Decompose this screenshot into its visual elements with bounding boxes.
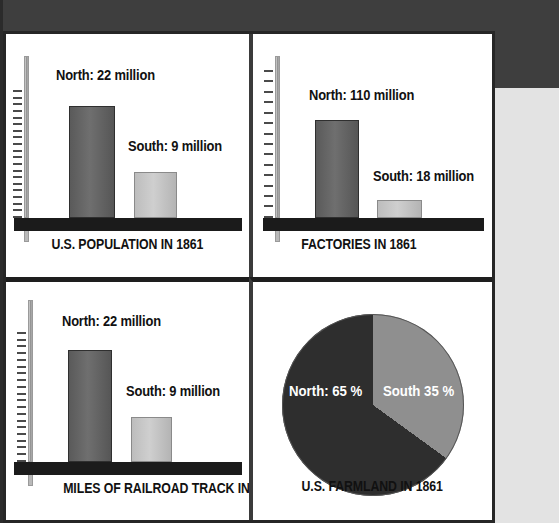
axis-tick-marks <box>17 332 26 462</box>
panel-caption: U.S. POPULATION IN 1861 <box>6 236 249 252</box>
bar-plot-us-population: North: 22 million South: 9 million U.S. … <box>6 34 249 277</box>
panel-caption-text: U.S. POPULATION IN 1861 <box>52 236 204 252</box>
bar-plot-factories: North: 110 million South: 18 million FAC… <box>253 34 492 277</box>
panel-caption-text: U.S. FARMLAND IN 1861 <box>302 478 443 494</box>
label-north: North: 22 million <box>56 66 155 83</box>
chart-figure: North: 22 million South: 9 million U.S. … <box>3 31 495 523</box>
panel-caption: FACTORIES IN 1861 <box>291 236 427 252</box>
bar-north <box>315 120 359 218</box>
baseline-bar <box>14 462 242 475</box>
panel-caption: U.S. FARMLAND IN 1861 <box>253 478 492 494</box>
label-north: North: 22 million <box>62 312 161 329</box>
label-north: North: 110 million <box>309 86 414 103</box>
axis-tick-marks <box>13 90 22 218</box>
bar-south <box>131 417 172 462</box>
axis-ruler-icon <box>24 56 29 218</box>
label-south: South: 9 million <box>128 137 222 154</box>
chart-grid: North: 22 million South: 9 million U.S. … <box>6 34 492 520</box>
baseline-bar <box>263 218 484 231</box>
panel-caption: MILES OF RAILROAD TRACK IN 1861 <box>44 480 249 496</box>
panel-caption-text: MILES OF RAILROAD TRACK IN 1861 <box>63 480 249 496</box>
pie-chart <box>282 314 464 496</box>
bar-north <box>69 106 115 218</box>
bar-plot-railroad-track: North: 22 million South: 9 million MILES… <box>6 282 249 520</box>
baseline-bar <box>14 218 242 231</box>
pie-slice-label-south: South 35 % <box>383 382 454 399</box>
pie-slice-label-north: North: 65 % <box>289 382 362 399</box>
top-right-dark-band <box>495 0 559 88</box>
label-south: South: 9 million <box>126 382 220 399</box>
axis-ruler-icon <box>275 56 280 218</box>
bar-north <box>68 350 112 462</box>
panel-factories: North: 110 million South: 18 million FAC… <box>249 34 492 277</box>
axis-ruler-icon <box>28 300 33 462</box>
axis-tick-marks <box>264 70 273 218</box>
pie-plot-us-farmland: North: 65 % South 35 % U.S. FARMLAND IN … <box>253 282 492 520</box>
top-dark-band <box>0 0 559 33</box>
label-south: South: 18 million <box>373 167 474 184</box>
bar-south <box>377 200 422 218</box>
bar-south <box>134 172 177 218</box>
panel-caption-text: FACTORIES IN 1861 <box>301 236 416 252</box>
panel-railroad-track: North: 22 million South: 9 million MILES… <box>6 277 249 520</box>
panel-us-population: North: 22 million South: 9 million U.S. … <box>6 34 249 277</box>
panel-us-farmland: North: 65 % South 35 % U.S. FARMLAND IN … <box>249 277 492 520</box>
